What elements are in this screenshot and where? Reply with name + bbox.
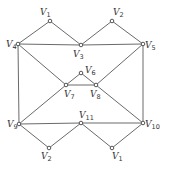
node-label: V1: [112, 151, 123, 163]
edge-n_v3-n_v2_top: [81, 21, 112, 45]
edge-n_v9-n_v2_bot: [19, 124, 49, 148]
label-subscript: 9: [14, 123, 18, 131]
edge-n_v8-n_v10: [96, 85, 143, 123]
node-label: V1: [40, 7, 51, 19]
edge-n_v4-n_v9: [18, 44, 19, 124]
node-label: V9: [7, 119, 18, 131]
node-n_v3: [79, 43, 83, 47]
label-subscript: 2: [48, 155, 52, 163]
edge-n_v1_bot-n_v10: [112, 123, 143, 148]
node-label: V5: [145, 40, 156, 52]
label-subscript: 6: [92, 69, 96, 77]
graph-edges: [18, 21, 143, 148]
edge-n_v7-n_v9: [19, 85, 66, 124]
label-subscript: 10: [152, 123, 160, 131]
edge-n_v3-n_v5: [81, 44, 143, 45]
label-subscript: 2: [120, 11, 124, 19]
label-subscript: 11: [86, 114, 94, 122]
label-subscript: 8: [97, 93, 101, 101]
node-label: V4: [6, 39, 17, 51]
node-n_v2_top: [110, 19, 114, 23]
node-label: V10: [145, 119, 160, 131]
edge-n_v11-n_v1_bot: [81, 123, 112, 148]
node-n_v4: [16, 42, 20, 46]
edge-n_v7-n_v6: [66, 73, 81, 85]
node-label: V8: [90, 89, 101, 101]
label-subscript: 1: [119, 155, 123, 163]
edge-n_v2_bot-n_v11: [49, 123, 81, 148]
node-n_v1_top: [48, 19, 52, 23]
graph-diagram: V1V2V3V4V5V6V7V8V9V10V11V2V1: [0, 0, 169, 171]
node-n_v6: [79, 71, 83, 75]
label-subscript: 1: [47, 11, 51, 19]
node-n_v9: [17, 122, 21, 126]
label-subscript: 4: [13, 43, 17, 51]
node-n_v7: [64, 83, 68, 87]
node-label: V2: [113, 7, 124, 19]
node-label: V2: [41, 151, 52, 163]
edge-n_v4-n_v3: [18, 44, 81, 45]
node-label: V11: [79, 110, 94, 122]
edge-n_v9-n_v11: [19, 123, 81, 124]
node-n_v8: [94, 83, 98, 87]
edge-n_v5-n_v8: [96, 44, 143, 85]
edge-n_v4-n_v1_top: [18, 21, 50, 44]
node-n_v1_bot: [110, 146, 114, 150]
node-label: V6: [85, 65, 96, 77]
edge-n_v2_top-n_v5: [112, 21, 143, 44]
edge-n_v4-n_v7: [18, 44, 66, 85]
label-subscript: 3: [80, 53, 84, 61]
label-subscript: 5: [152, 44, 156, 52]
node-n_v11: [79, 121, 83, 125]
node-n_v2_bot: [47, 146, 51, 150]
node-label: V7: [64, 89, 75, 101]
label-subscript: 7: [71, 93, 75, 101]
edge-n_v1_top-n_v3: [50, 21, 81, 45]
node-label: V3: [73, 49, 84, 61]
